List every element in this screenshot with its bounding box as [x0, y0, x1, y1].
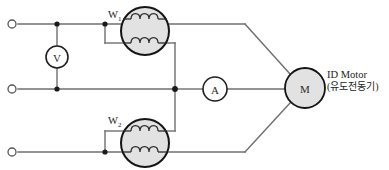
wattmeter-1-label: W — [108, 9, 118, 20]
wattmeter-1-body — [121, 7, 169, 55]
junction-dot-voltmeter-top — [54, 21, 59, 26]
wattmeter-2[interactable]: W 2 — [108, 115, 169, 167]
terminal-line-2[interactable] — [8, 85, 16, 93]
terminal-line-1[interactable] — [8, 20, 16, 28]
wattmeter-1-subscript: 1 — [118, 15, 122, 23]
voltmeter-label: V — [53, 52, 61, 64]
junction-dot-voltmeter-bottom — [54, 86, 59, 91]
wire-line1-motor-diagonal — [245, 24, 290, 74]
ammeter[interactable]: A — [203, 77, 227, 101]
motor[interactable]: M — [285, 68, 325, 108]
junction-dot-w2-tap — [102, 149, 107, 154]
wattmeter-2-label: W — [108, 115, 118, 126]
motor-annotation-line-1: ID Motor — [327, 68, 379, 81]
wattmeter-1[interactable]: W 1 — [108, 7, 169, 55]
junction-dot-w1-tap — [102, 21, 107, 26]
motor-annotation-line-2: (유도전동기) — [327, 81, 379, 94]
ammeter-label: A — [211, 84, 219, 96]
terminal-line-3[interactable] — [8, 148, 16, 156]
wattmeter-2-body — [121, 119, 169, 167]
circuit-diagram: W 1 W 2 V — [0, 0, 389, 170]
motor-annotation: ID Motor (유도전동기) — [327, 68, 379, 94]
junction-dot-midline — [172, 86, 178, 92]
motor-label: M — [300, 83, 310, 95]
wattmeter-2-subscript: 2 — [118, 121, 122, 129]
wire-line3-motor-diagonal — [245, 103, 290, 152]
voltmeter[interactable]: V — [46, 46, 68, 68]
